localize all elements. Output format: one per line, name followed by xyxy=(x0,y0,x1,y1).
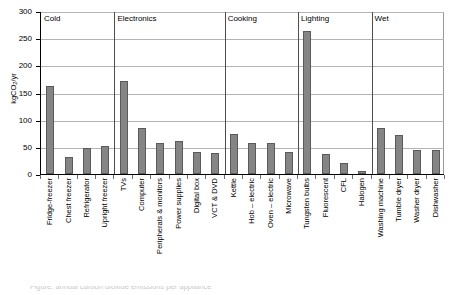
bar xyxy=(211,153,219,174)
bar xyxy=(340,163,348,174)
x-tick-label: Washer dryer xyxy=(412,178,421,223)
bar xyxy=(120,81,128,174)
x-label-slot: Refrigerator xyxy=(77,178,95,270)
bar xyxy=(267,143,275,175)
bar xyxy=(358,171,366,174)
x-tick-label: Refrigerator xyxy=(81,178,90,218)
x-tick-label: Washing machine xyxy=(375,178,384,237)
bar xyxy=(395,135,403,174)
bar xyxy=(377,128,385,174)
x-label-slot: TVs xyxy=(113,178,131,270)
plot-area: ColdElectronicsCookingLightingWet xyxy=(40,12,444,175)
x-label-slot: Kettle xyxy=(224,178,242,270)
bar xyxy=(248,143,256,175)
x-tick-label: Upright freezer xyxy=(100,178,109,228)
bar xyxy=(413,150,421,174)
x-tick-label: Microwave xyxy=(283,178,292,214)
y-tick-label: 0 xyxy=(0,170,32,179)
x-label-slot: Washing machine xyxy=(371,178,389,270)
group-separator xyxy=(372,12,373,174)
bar xyxy=(138,128,146,174)
x-label-slot: CFL xyxy=(334,178,352,270)
bar xyxy=(175,141,183,174)
x-label-slot: Halogen xyxy=(352,178,370,270)
group-label: Cooking xyxy=(228,14,257,23)
x-tick-label: CFL xyxy=(338,178,347,192)
group-label: Wet xyxy=(375,14,389,23)
x-tick-label: Hob – electric xyxy=(247,178,256,224)
x-label-slot: Chest freezer xyxy=(58,178,76,270)
bar xyxy=(101,146,109,174)
x-label-slot: Tungsten bulbs xyxy=(297,178,315,270)
x-tick-label: Oven – electric xyxy=(265,178,274,228)
bar xyxy=(83,148,91,174)
x-tick-label: Halogen xyxy=(357,178,366,206)
y-tick-label: 100 xyxy=(0,116,32,125)
x-label-slot: Power supplies xyxy=(169,178,187,270)
x-label-slot: Microwave xyxy=(279,178,297,270)
group-label: Cold xyxy=(44,14,60,23)
bar xyxy=(322,154,330,174)
x-tick-label: Fridge-freezer xyxy=(45,178,54,225)
x-label-slot: Dishwasher xyxy=(426,178,444,270)
x-tick-label: TVs xyxy=(118,178,127,191)
group-separator xyxy=(225,12,226,174)
y-tick-label: 50 xyxy=(0,143,32,152)
x-tick-mark xyxy=(444,175,445,179)
y-tick-label: 200 xyxy=(0,61,32,70)
x-tick-label: Fluorescent xyxy=(320,178,329,217)
gridline xyxy=(41,39,444,40)
cut-off-caption-text: Figure: annual carbon dioxide emissions … xyxy=(30,286,453,291)
gridline xyxy=(41,121,444,122)
x-tick-label: VCT & DVD xyxy=(210,178,219,218)
x-label-slot: Peripherals & monitors xyxy=(150,178,168,270)
bar xyxy=(285,152,293,174)
x-label-slot: Digital box xyxy=(187,178,205,270)
bar xyxy=(156,143,164,175)
y-tick-label: 150 xyxy=(0,89,32,98)
x-tick-label: Dishwasher xyxy=(430,178,439,217)
x-tick-label: Tungsten bulbs xyxy=(302,178,311,229)
x-label-slot: Fridge-freezer xyxy=(40,178,58,270)
x-label-slot: Oven – electric xyxy=(260,178,278,270)
x-label-slot: VCT & DVD xyxy=(205,178,223,270)
x-axis-category-labels: Fridge-freezerChest freezerRefrigeratorU… xyxy=(40,178,444,270)
y-axis-ticks: 050100150200250300 xyxy=(0,12,36,175)
bar-chart: kgCO2/yr 050100150200250300 ColdElectron… xyxy=(0,0,453,295)
x-label-slot: Upright freezer xyxy=(95,178,113,270)
bar xyxy=(230,134,238,174)
x-label-slot: Fluorescent xyxy=(315,178,333,270)
y-tick-label: 250 xyxy=(0,34,32,43)
x-tick-label: Tumble dryer xyxy=(394,178,403,222)
gridline xyxy=(41,12,444,13)
x-tick-label: Peripherals & monitors xyxy=(155,178,164,254)
bar xyxy=(65,157,73,174)
bar xyxy=(303,31,311,174)
gridline xyxy=(41,66,444,67)
bar xyxy=(46,86,54,174)
group-label: Lighting xyxy=(301,14,329,23)
x-tick-label: Computer xyxy=(136,178,145,211)
gridline xyxy=(41,94,444,95)
x-label-slot: Washer dryer xyxy=(407,178,425,270)
x-tick-label: Digital box xyxy=(192,178,201,213)
y-tick-label: 300 xyxy=(0,7,32,16)
group-separator xyxy=(298,12,299,174)
x-label-slot: Hob – electric xyxy=(242,178,260,270)
cut-off-caption: Figure: annual carbon dioxide emissions … xyxy=(0,286,453,295)
x-tick-label: Power supplies xyxy=(173,178,182,229)
x-label-slot: Tumble dryer xyxy=(389,178,407,270)
x-tick-label: Kettle xyxy=(228,178,237,197)
bar xyxy=(432,150,440,174)
x-label-slot: Computer xyxy=(132,178,150,270)
group-label: Electronics xyxy=(117,14,156,23)
x-tick-label: Chest freezer xyxy=(63,178,72,223)
bar xyxy=(193,152,201,174)
group-separator xyxy=(114,12,115,174)
